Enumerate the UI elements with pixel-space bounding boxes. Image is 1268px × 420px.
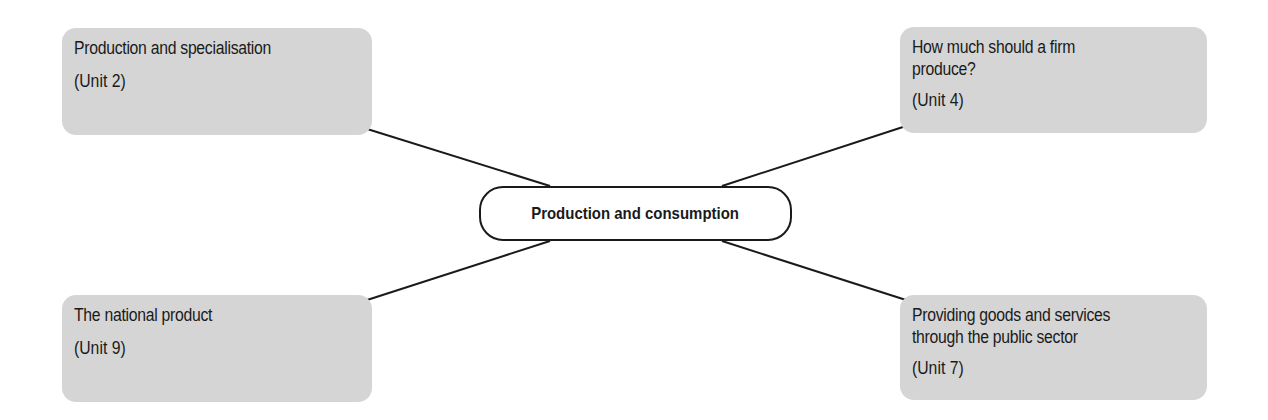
node-how-much-firm-produce: How much should a firm produce? (Unit 4) <box>900 27 1207 133</box>
node-production-specialisation: Production and specialisation (Unit 2) <box>62 28 372 135</box>
node-unit: (Unit 4) <box>912 89 1167 111</box>
node-title: The national product <box>74 304 331 326</box>
node-title: Providing goods and services through the… <box>912 304 1167 348</box>
node-unit: (Unit 9) <box>74 337 331 359</box>
central-topic-label: Production and consumption <box>532 204 740 224</box>
node-title: Production and specialisation <box>74 37 331 59</box>
node-national-product: The national product (Unit 9) <box>62 295 372 402</box>
node-unit: (Unit 7) <box>912 357 1167 379</box>
node-title: How much should a firm produce? <box>912 36 1167 80</box>
node-unit: (Unit 2) <box>74 70 331 92</box>
connector-bottom-right <box>722 241 906 300</box>
connector-bottom-left <box>364 241 550 301</box>
node-public-sector-provision: Providing goods and services through the… <box>900 295 1207 400</box>
connector-top-left <box>364 128 550 186</box>
central-topic: Production and consumption <box>479 186 792 241</box>
connector-top-right <box>722 126 906 186</box>
